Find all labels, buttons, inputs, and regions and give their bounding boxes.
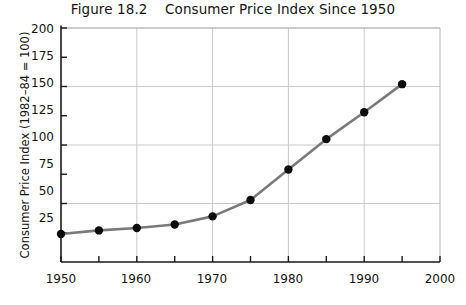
data-point bbox=[398, 80, 406, 88]
data-point bbox=[171, 220, 179, 228]
gridlines bbox=[61, 28, 440, 262]
data-point bbox=[133, 224, 141, 232]
data-point bbox=[95, 226, 103, 234]
data-point bbox=[208, 212, 216, 220]
data-point bbox=[322, 135, 330, 143]
plot-area bbox=[0, 0, 466, 305]
cpi-line bbox=[61, 84, 402, 234]
figure-container: Figure 18.2 Consumer Price Index Since 1… bbox=[0, 0, 466, 305]
cpi-markers bbox=[57, 80, 407, 238]
data-point bbox=[246, 196, 254, 204]
data-point bbox=[57, 230, 65, 238]
axis-frame bbox=[61, 26, 440, 263]
data-point bbox=[360, 108, 368, 116]
data-point bbox=[284, 165, 292, 173]
